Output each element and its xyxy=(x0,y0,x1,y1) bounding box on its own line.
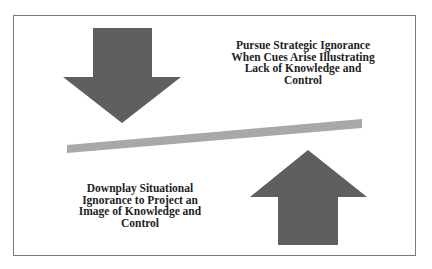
up-arrow-icon xyxy=(250,150,367,245)
strategic-ignorance-label: Pursue Strategic Ignorance When Cues Ari… xyxy=(228,40,378,86)
situational-ignorance-label: Downplay Situational Ignorance to Projec… xyxy=(75,183,205,229)
balance-bar xyxy=(67,119,362,153)
down-arrow-icon xyxy=(63,28,181,123)
